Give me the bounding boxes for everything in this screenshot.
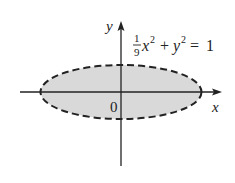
equation-y-var: y xyxy=(171,37,181,55)
equation-frac-numerator: 1 xyxy=(134,32,140,44)
equation-y-exp: 2 xyxy=(181,34,186,45)
equation-x-var: x xyxy=(141,37,149,54)
y-axis-label: y xyxy=(104,18,113,34)
equation-plus: + xyxy=(160,37,169,54)
x-axis-label: x xyxy=(211,99,219,115)
equation-frac-denominator: 9 xyxy=(134,46,140,58)
equation-rhs: 1 xyxy=(206,37,214,54)
ellipse-diagram: y x 0 1 9 x 2 + y 2 = 1 xyxy=(0,0,235,183)
equation-equals: = xyxy=(190,37,199,54)
origin-label: 0 xyxy=(110,99,118,115)
equation-x-exp: 2 xyxy=(150,34,155,45)
equation-label: 1 9 x 2 + y 2 = 1 xyxy=(133,32,214,58)
